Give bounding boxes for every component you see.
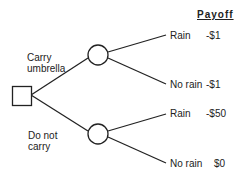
decision-node: [13, 87, 32, 106]
payoff-value: -$1: [206, 30, 220, 42]
branch-nocarry-rain: [108, 114, 166, 131]
branch-do-not-carry: [31, 95, 88, 131]
payoff-value: -$50: [206, 108, 226, 120]
payoff-value: -$1: [206, 79, 220, 91]
outcome-label: No rain: [170, 79, 202, 91]
outcome-label: No rain: [170, 158, 202, 170]
branch-carry-rain: [108, 35, 166, 52]
branch-nocarry-no-rain: [108, 137, 166, 163]
branch-carry-no-rain: [108, 58, 166, 84]
chance-node-carry: [88, 45, 108, 65]
outcome-label: Rain: [170, 30, 191, 42]
chance-node-do-not-carry: [88, 124, 108, 144]
payoff-header: Payoff: [197, 9, 234, 21]
option-label-carry-line2: umbrella: [27, 63, 65, 75]
payoff-value: $0: [214, 158, 225, 170]
decision-tree: Payoff Carry umbrella Do not carry Rain …: [0, 0, 243, 174]
option-label-nocarry-line2: carry: [28, 141, 50, 153]
outcome-label: Rain: [170, 108, 191, 120]
